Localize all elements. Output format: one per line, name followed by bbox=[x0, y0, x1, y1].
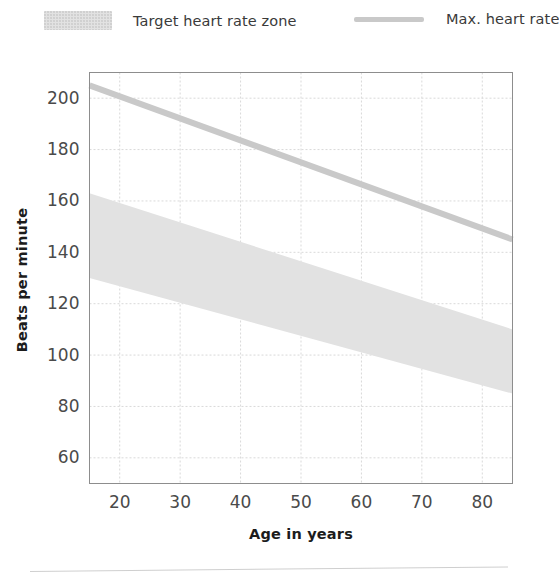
target-heart-rate-zone-band bbox=[90, 193, 513, 393]
target-zone-polygon bbox=[90, 193, 513, 393]
